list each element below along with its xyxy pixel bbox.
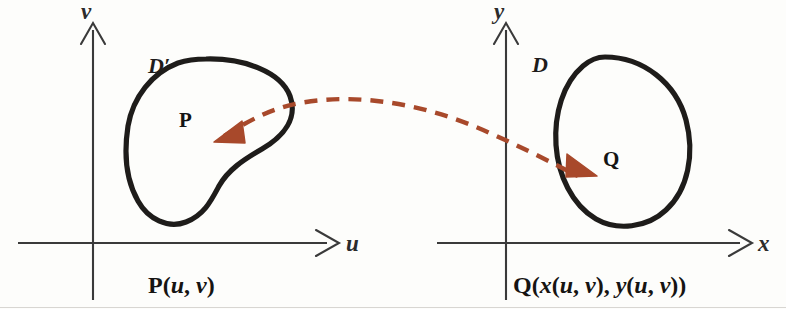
xy-plane-panel: x y D Q — [437, 0, 770, 300]
caption-q-open: ( — [532, 272, 540, 298]
y-axis-label: y — [491, 0, 505, 24]
caption-q-inner-close2: ) — [670, 272, 678, 298]
caption-p-uv: P(u, v) — [148, 272, 215, 298]
caption-p-func: P — [148, 272, 163, 298]
caption-q-inner-a2: u — [634, 272, 647, 298]
arrowhead-left-icon — [214, 121, 245, 143]
transformation-arrow — [214, 99, 597, 177]
caption-q-close: ) — [678, 272, 686, 298]
caption-p-close: ) — [207, 272, 215, 298]
caption-q-inner-comma2: , — [648, 272, 660, 298]
x-axis-label: x — [757, 231, 770, 256]
caption-q-inner-b2: v — [660, 272, 671, 298]
figure-root: u v D′ P x y D Q — [0, 0, 786, 309]
diagram-canvas: u v D′ P x y D Q — [0, 0, 786, 309]
v-axis-label: v — [81, 0, 92, 24]
u-axis-label: u — [346, 231, 359, 256]
caption-q-inner-b1: v — [585, 272, 596, 298]
caption-q-xy: Q(x(u, v), y(u, v)) — [513, 272, 686, 298]
caption-q-inner-a1: u — [560, 272, 573, 298]
region-label-d-prime: D′ — [147, 53, 170, 78]
uv-plane-panel: u v D′ P — [18, 0, 359, 300]
caption-q-arg2: y — [613, 272, 627, 298]
caption-p-arg1: u — [171, 272, 184, 298]
caption-q-inner-open2: ( — [626, 272, 634, 298]
point-label-q: Q — [603, 147, 619, 171]
arrowhead-right-icon — [566, 154, 597, 177]
caption-q-inner-comma1: , — [573, 272, 585, 298]
caption-q-arg1: x — [539, 272, 552, 298]
caption-p-comma: , — [184, 272, 196, 298]
caption-q-inner-open1: ( — [552, 272, 560, 298]
caption-q-inner-close1: ) — [596, 272, 604, 298]
region-outline-d — [556, 57, 690, 226]
caption-q-func: Q — [513, 272, 532, 298]
point-label-p: P — [179, 108, 192, 132]
region-label-d: D — [531, 52, 548, 77]
caption-p-open: ( — [163, 272, 171, 298]
caption-q-comma: , — [604, 272, 616, 298]
region-outline-d-prime — [126, 59, 292, 224]
caption-p-arg2: v — [196, 272, 207, 298]
